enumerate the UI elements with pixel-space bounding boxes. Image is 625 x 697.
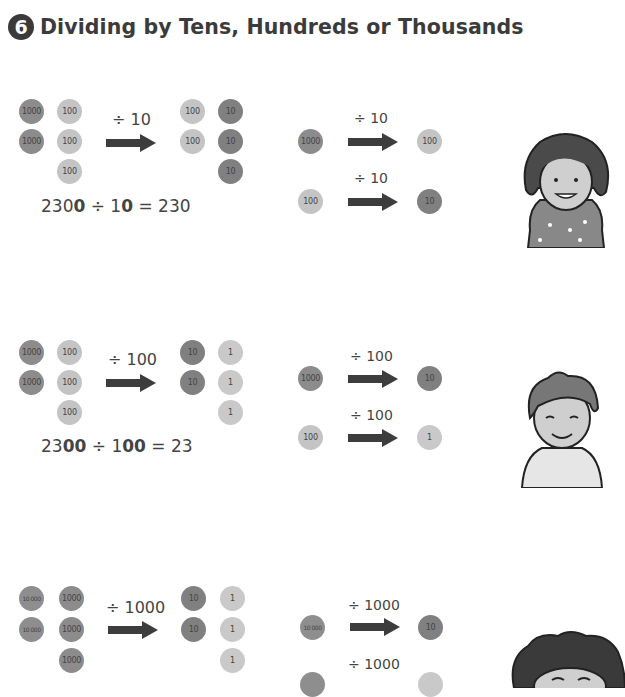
place-value-counter: 10 000: [19, 617, 44, 642]
equation: 2300 ÷ 100 = 23: [41, 436, 193, 456]
place-value-counter: 100: [57, 340, 82, 365]
place-value-counter: 1: [417, 425, 442, 450]
place-value-counter: 10: [218, 99, 243, 124]
place-value-counter: 100: [57, 370, 82, 395]
divisor-label: ÷ 10: [354, 170, 388, 186]
place-value-counter: 10: [417, 189, 442, 214]
place-value-counter: 1000: [298, 129, 323, 154]
place-value-counter: 1000: [59, 586, 84, 611]
place-value-counter: 1000: [59, 617, 84, 642]
place-value-counter: 10: [417, 366, 442, 391]
place-value-counter: 10: [180, 370, 205, 395]
boy-character-illustration: [518, 368, 606, 488]
place-value-counter: 10: [181, 617, 206, 642]
page-title: Dividing by Tens, Hundreds or Thousands: [40, 15, 524, 39]
place-value-counter: 10: [181, 586, 206, 611]
arrow-right-icon: [348, 429, 398, 447]
place-value-counter: [418, 672, 443, 697]
place-value-counter: 10 000: [300, 615, 325, 640]
divisor-label: ÷ 100: [108, 350, 157, 369]
place-value-counter: 1000: [298, 366, 323, 391]
divisor-label: ÷ 1000: [348, 656, 400, 672]
place-value-counter: 100: [298, 189, 323, 214]
arrow-right-icon: [106, 134, 156, 152]
divisor-label: ÷ 100: [350, 348, 393, 364]
place-value-counter: 1000: [19, 370, 44, 395]
place-value-counter: 10: [218, 159, 243, 184]
place-value-counter: 1000: [19, 129, 44, 154]
arrow-right-icon: [348, 193, 398, 211]
place-value-counter: 10: [180, 340, 205, 365]
place-value-counter: 1: [218, 400, 243, 425]
place-value-counter: 100: [180, 99, 205, 124]
place-value-counter: 10 000: [19, 586, 44, 611]
place-value-counter: 100: [298, 425, 323, 450]
place-value-counter: 100: [57, 400, 82, 425]
place-value-counter: 10: [418, 615, 443, 640]
place-value-counter: 1: [220, 586, 245, 611]
arrow-right-icon: [108, 621, 158, 639]
divisor-label: ÷ 1000: [348, 597, 400, 613]
arrow-right-icon: [348, 133, 398, 151]
curly-hair-girl-character-illustration: [508, 628, 625, 688]
arrow-right-icon: [106, 374, 156, 392]
place-value-counter: 1000: [59, 648, 84, 673]
place-value-counter: 100: [57, 99, 82, 124]
place-value-counter: [300, 672, 325, 697]
equation: 2300 ÷ 10 = 230: [41, 196, 191, 216]
divisor-label: ÷ 10: [354, 110, 388, 126]
arrow-right-icon: [350, 618, 400, 636]
divisor-label: ÷ 10: [112, 110, 151, 129]
place-value-counter: 100: [57, 129, 82, 154]
page-heading: 6 Dividing by Tens, Hundreds or Thousand…: [8, 14, 524, 40]
place-value-counter: 100: [180, 129, 205, 154]
place-value-counter: 1: [218, 340, 243, 365]
place-value-counter: 10: [218, 129, 243, 154]
place-value-counter: 1000: [19, 99, 44, 124]
place-value-counter: 1: [220, 648, 245, 673]
place-value-counter: 1: [220, 617, 245, 642]
divisor-label: ÷ 100: [350, 407, 393, 423]
place-value-counter: 100: [57, 159, 82, 184]
place-value-counter: 1000: [19, 340, 44, 365]
arrow-right-icon: [348, 370, 398, 388]
section-number-badge: 6: [8, 14, 34, 40]
divisor-label: ÷ 1000: [106, 598, 165, 617]
girl-character-illustration: [520, 130, 612, 248]
place-value-counter: 100: [417, 129, 442, 154]
place-value-counter: 1: [218, 370, 243, 395]
